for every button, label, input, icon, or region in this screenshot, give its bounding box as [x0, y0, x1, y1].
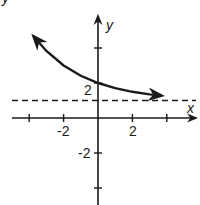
- x-axis-label: x: [186, 100, 195, 116]
- y-tick-label-2: 2: [84, 82, 92, 98]
- y-axis-label: y: [105, 17, 114, 33]
- x-tick-label-2: 2: [129, 123, 137, 139]
- y-tick-label-neg2: -2: [78, 145, 91, 161]
- chart: x y -2 2 2 -2: [0, 0, 200, 205]
- x-tick-label-neg2: -2: [57, 123, 70, 139]
